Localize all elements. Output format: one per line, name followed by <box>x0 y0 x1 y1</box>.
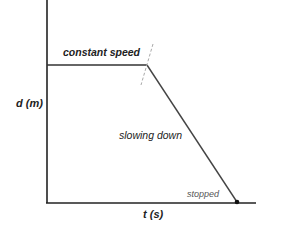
stopped-point-marker <box>235 200 240 205</box>
segment-label-constant-speed: constant speed <box>63 46 141 58</box>
end-label-stopped: stopped <box>187 189 220 199</box>
segment-label-slowing-down: slowing down <box>119 129 182 141</box>
y-axis-label: d (m) <box>16 97 43 109</box>
distance-time-chart: constant speed slowing down stopped d (m… <box>0 0 286 234</box>
x-axis-label: t (s) <box>143 208 164 220</box>
